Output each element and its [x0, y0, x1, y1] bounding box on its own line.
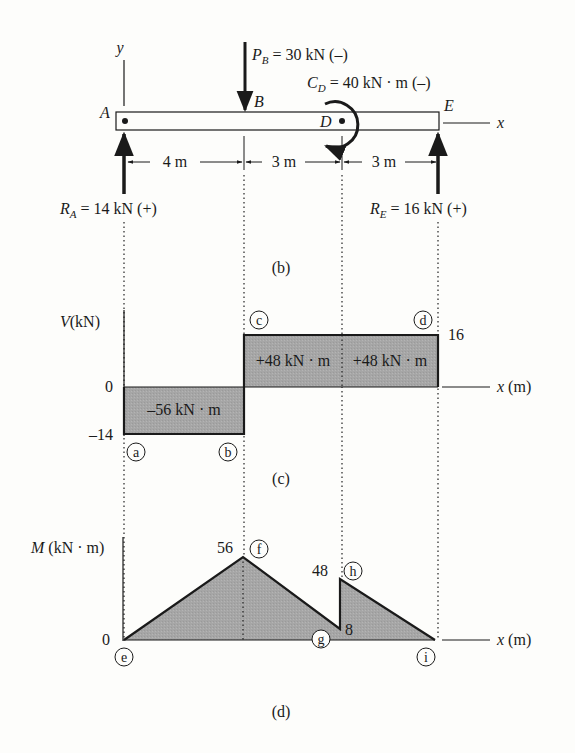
beam-diagram-canvas: y x A B D E PB = 30 kN (–) CD = 40 kN · … [0, 0, 575, 753]
shear-diagram: V(kN) x (m) 16 0 –14 –56 kN · m +48 kN ·… [60, 310, 531, 488]
reaction-RE-label: RE = 16 kN (+) [369, 200, 467, 220]
shear-area-AB-label: –56 kN · m [146, 401, 221, 418]
beam-fbd: y x A B D E PB = 30 kN (–) CD = 40 kN · … [59, 39, 504, 277]
dim-AB-label: 4 m [163, 153, 188, 170]
svg-text:d: d [420, 313, 427, 328]
reaction-RA-label: RA = 14 kN (+) [59, 200, 157, 220]
load-PB-label: PB = 30 kN (–) [251, 46, 348, 66]
point-D-dot [339, 118, 345, 124]
moment-area [124, 557, 435, 640]
shear-ylabel: V(kN) [60, 313, 100, 331]
moment-tick-0: 0 [102, 631, 110, 648]
svg-text:c: c [256, 313, 262, 328]
dim-BD-label: 3 m [272, 153, 297, 170]
moment-xlabel: x (m) [496, 631, 531, 649]
shear-xlabel: x (m) [496, 378, 531, 396]
moment-value-56: 56 [217, 539, 233, 556]
shear-tick-0: 0 [105, 378, 113, 395]
svg-text:b: b [225, 445, 232, 460]
moment-diagram: M (kN · m) x (m) 0 56 48 8 e f g h i (d) [30, 537, 531, 721]
svg-text:e: e [121, 650, 127, 665]
shear-tick-neg14: –14 [88, 426, 113, 443]
dim-DE-label: 3 m [372, 153, 397, 170]
svg-text:g: g [318, 632, 325, 647]
caption-c: (c) [272, 470, 290, 488]
shear-area-DE-label: +48 kN · m [353, 352, 428, 369]
point-A-label: A [99, 104, 110, 121]
svg-text:a: a [133, 445, 140, 460]
svg-text:f: f [257, 542, 262, 557]
y-axis-label: y [114, 39, 124, 57]
shear-area-BD-label: +48 kN · m [256, 352, 331, 369]
point-B-label: B [254, 93, 264, 110]
point-A-dot [122, 118, 128, 124]
moment-ylabel: M (kN · m) [30, 539, 104, 557]
caption-d: (d) [272, 703, 291, 721]
point-E-label: E [443, 97, 454, 114]
x-axis-label: x [496, 114, 504, 131]
svg-text:i: i [424, 650, 428, 665]
moment-value-8: 8 [345, 621, 353, 638]
svg-text:h: h [350, 564, 357, 579]
couple-CD-label: CD = 40 kN · m (–) [307, 74, 431, 94]
beam-body [116, 112, 439, 130]
moment-value-48: 48 [312, 562, 328, 579]
point-D-label: D [319, 113, 332, 130]
caption-b: (b) [272, 259, 291, 277]
shear-tick-16: 16 [448, 326, 464, 343]
